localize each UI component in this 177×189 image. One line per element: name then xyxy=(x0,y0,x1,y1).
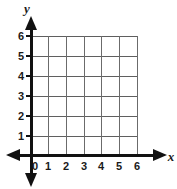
xtick-label-2: 2 xyxy=(63,160,69,172)
x-axis-label: x xyxy=(167,149,175,164)
ytick-label-1: 1 xyxy=(18,130,24,142)
x-axis-left-arrowhead-icon xyxy=(6,149,20,161)
ytick-label-4: 4 xyxy=(18,70,25,82)
ytick-label-2: 2 xyxy=(18,110,24,122)
x-axis-tick-labels: 0 1 2 3 4 5 6 xyxy=(32,160,140,172)
ytick-label-5: 5 xyxy=(18,50,24,62)
xtick-label-5: 5 xyxy=(116,160,122,172)
ytick-label-3: 3 xyxy=(18,90,24,102)
xtick-label-4: 4 xyxy=(98,160,105,172)
xtick-label-0: 0 xyxy=(32,160,38,172)
y-axis-label: y xyxy=(22,1,30,16)
y-axis-tick-labels: 1 2 3 4 5 6 xyxy=(18,30,25,142)
y-axis-up-arrowhead-icon xyxy=(25,16,37,30)
y-axis-down-arrowhead-icon xyxy=(25,173,37,187)
ytick-label-6: 6 xyxy=(18,30,24,42)
xtick-label-3: 3 xyxy=(81,160,87,172)
coordinate-grid-figure: 0 1 2 3 4 5 6 1 2 3 4 5 6 y x xyxy=(0,0,177,189)
xtick-label-1: 1 xyxy=(45,160,51,172)
graph-canvas: 0 1 2 3 4 5 6 1 2 3 4 5 6 y x xyxy=(0,0,177,189)
xtick-label-6: 6 xyxy=(134,160,140,172)
x-axis-right-arrowhead-icon xyxy=(153,149,167,161)
